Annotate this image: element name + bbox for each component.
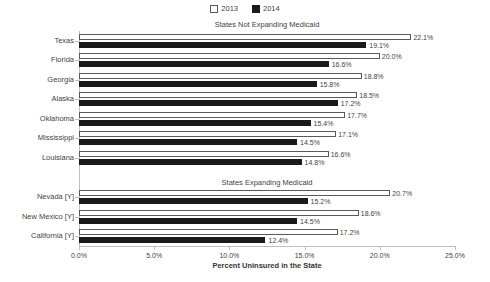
chart-row: New Mexico [Y]18.6%14.5% xyxy=(79,207,455,227)
bar-value-2014: 14.5% xyxy=(300,217,320,224)
bar-value-2014: 19.1% xyxy=(369,41,389,48)
bar-value-2014: 16.6% xyxy=(332,61,352,68)
bar-value-2013: 18.8% xyxy=(364,72,384,79)
group-title-not-expanding: States Not Expanding Medicaid xyxy=(79,20,455,29)
bar-2014[interactable]: 17.2% xyxy=(79,100,338,106)
bar-value-2013: 17.2% xyxy=(340,229,360,236)
plot-area: Texas22.1%19.1%Florida20.0%16.6%Georgia1… xyxy=(79,31,455,246)
bar-2014[interactable]: 15.2% xyxy=(79,198,308,204)
bar-2014[interactable]: 14.8% xyxy=(79,159,302,165)
bar-value-2013: 20.7% xyxy=(392,190,412,197)
chart-row: Florida20.0%16.6% xyxy=(79,51,455,71)
x-axis-tick-label: 0.0% xyxy=(71,252,87,259)
category-label: Oklahoma xyxy=(40,115,74,123)
legend-label: 2013 xyxy=(221,5,238,13)
bar-2013[interactable]: 17.7% xyxy=(79,112,345,118)
bar-2013[interactable]: 17.1% xyxy=(79,131,336,137)
bar-value-2014: 15.8% xyxy=(320,80,340,87)
bar-value-2013: 20.0% xyxy=(382,53,402,60)
category-label: Florida xyxy=(51,56,74,64)
chart-row: Alaska18.5%17.2% xyxy=(79,90,455,110)
x-axis-tick xyxy=(380,246,381,250)
bar-2014[interactable]: 19.1% xyxy=(79,42,366,48)
bar-value-2013: 22.1% xyxy=(413,33,433,40)
bar-2013[interactable]: 18.5% xyxy=(79,92,357,98)
bar-2014[interactable]: 15.4% xyxy=(79,120,311,126)
bar-value-2014: 14.8% xyxy=(305,159,325,166)
bar-value-2013: 17.1% xyxy=(338,131,358,138)
category-label: New Mexico [Y] xyxy=(22,213,74,221)
x-axis-tick xyxy=(455,246,456,250)
chart-legend: 20132014 xyxy=(0,5,490,13)
legend-swatch-2014-icon xyxy=(252,5,260,13)
bar-2013[interactable]: 17.2% xyxy=(79,229,338,235)
bar-value-2014: 12.4% xyxy=(268,237,288,244)
legend-entry-2013[interactable]: 2013 xyxy=(210,5,238,13)
bar-2013[interactable]: 20.0% xyxy=(79,53,380,59)
chart-row: Mississippi17.1%14.5% xyxy=(79,129,455,149)
bar-value-2013: 16.6% xyxy=(331,151,351,158)
x-axis-tick xyxy=(229,246,230,250)
chart-row: Texas22.1%19.1% xyxy=(79,31,455,51)
x-axis-line xyxy=(79,246,455,247)
chart-row: California [Y]17.2%12.4% xyxy=(79,226,455,246)
chart-row: Oklahoma17.7%15.4% xyxy=(79,109,455,129)
x-axis-tick xyxy=(79,246,80,250)
x-axis-tick-label: 10.0% xyxy=(219,252,239,259)
bar-2014[interactable]: 14.5% xyxy=(79,139,297,145)
chart-row: Georgia18.8%15.8% xyxy=(79,70,455,90)
bar-value-2014: 15.2% xyxy=(311,198,331,205)
category-label: Louisiana xyxy=(42,154,74,162)
bar-2014[interactable]: 15.8% xyxy=(79,81,317,87)
legend-swatch-2013-icon xyxy=(210,5,218,13)
chart-row: Nevada [Y]20.7%15.2% xyxy=(79,187,455,207)
category-label: Alaska xyxy=(51,95,74,103)
bar-value-2014: 15.4% xyxy=(314,119,334,126)
bar-value-2014: 14.5% xyxy=(300,139,320,146)
category-label: Georgia xyxy=(47,76,74,84)
bar-2013[interactable]: 18.8% xyxy=(79,73,362,79)
bar-value-2013: 18.5% xyxy=(359,92,379,99)
x-axis-tick-label: 5.0% xyxy=(146,252,162,259)
bar-2014[interactable]: 12.4% xyxy=(79,237,265,243)
bar-value-2013: 17.7% xyxy=(347,111,367,118)
bar-2013[interactable]: 18.6% xyxy=(79,210,359,216)
bar-value-2014: 17.2% xyxy=(341,100,361,107)
bar-2013[interactable]: 16.6% xyxy=(79,151,329,157)
x-axis-tick xyxy=(305,246,306,250)
x-axis-tick-label: 20.0% xyxy=(370,252,390,259)
bar-2013[interactable]: 22.1% xyxy=(79,34,411,40)
bar-2014[interactable]: 16.6% xyxy=(79,61,329,67)
category-label: Nevada [Y] xyxy=(37,193,74,201)
chart-row: Louisiana16.6%14.8% xyxy=(79,148,455,168)
bar-2013[interactable]: 20.7% xyxy=(79,190,390,196)
x-axis-title: Percent Uninsured in the State xyxy=(79,261,455,270)
bar-2014[interactable]: 14.5% xyxy=(79,218,297,224)
category-label: Texas xyxy=(54,37,74,45)
x-axis-tick-label: 25.0% xyxy=(445,252,465,259)
legend-label: 2014 xyxy=(263,5,280,13)
chart-container: 20132014 States Not Expanding Medicaid S… xyxy=(0,0,490,282)
legend-entry-2014[interactable]: 2014 xyxy=(252,5,280,13)
category-label: Mississippi xyxy=(38,134,74,142)
x-axis-tick-label: 15.0% xyxy=(295,252,315,259)
category-label: California [Y] xyxy=(31,232,74,240)
x-axis-tick xyxy=(154,246,155,250)
bar-value-2013: 18.6% xyxy=(361,209,381,216)
